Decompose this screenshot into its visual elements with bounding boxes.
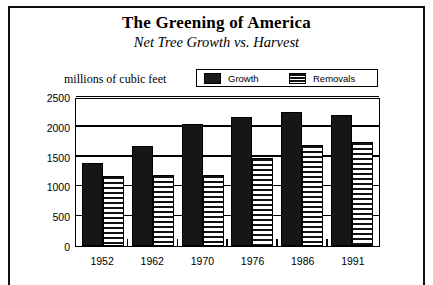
x-axis-tick-mark (226, 239, 228, 246)
y-axis-tick-label: 500 (26, 212, 70, 222)
bar-growth-1976 (231, 117, 252, 246)
x-axis-tick-labels: 195219621970197619861991 (75, 255, 380, 267)
bar-group (82, 99, 124, 246)
x-axis-tick-label: 1952 (80, 255, 124, 267)
solid-black-swatch-icon (204, 73, 221, 84)
legend-label-removals: Removals (313, 73, 355, 84)
x-axis-tick-mark (177, 239, 179, 246)
gridline (76, 96, 379, 97)
bar-removals-1962 (153, 175, 174, 246)
y-axis-tick-label: 2000 (26, 123, 70, 133)
bar-growth-1970 (182, 124, 203, 246)
bar-group (331, 99, 373, 246)
legend-item-growth: Growth (204, 72, 259, 84)
y-axis-tick-label: 1500 (26, 153, 70, 163)
page-border-top (8, 6, 425, 8)
x-axis-tick-mark (127, 239, 129, 246)
plot-inner (76, 99, 379, 246)
chart-figure: The Greening of America Net Tree Growth … (0, 0, 433, 285)
chart-subtitle: Net Tree Growth vs. Harvest (0, 34, 433, 51)
y-axis-tick-label: 2500 (26, 93, 70, 103)
bar-group (182, 99, 224, 246)
x-axis-tick-label: 1986 (281, 255, 325, 267)
bar-removals-1991 (352, 142, 373, 246)
bar-group (231, 99, 273, 246)
legend-label-growth: Growth (228, 73, 259, 84)
bar-group (132, 99, 174, 246)
bar-removals-1970 (203, 175, 224, 246)
bar-group (281, 99, 323, 246)
bar-removals-1952 (103, 176, 124, 246)
x-axis-tick-mark (326, 239, 328, 246)
x-axis-tick-mark (276, 239, 278, 246)
x-axis-tick-label: 1962 (130, 255, 174, 267)
bar-removals-1976 (252, 158, 273, 246)
bar-growth-1991 (331, 115, 352, 246)
y-axis-units-label: millions of cubic feet (64, 72, 166, 87)
plot-area (75, 98, 380, 247)
x-axis-tick-label: 1991 (331, 255, 375, 267)
horizontal-stripe-swatch-icon (289, 73, 306, 84)
bar-growth-1952 (82, 163, 103, 246)
bar-growth-1962 (132, 146, 153, 246)
x-axis-tick-label: 1976 (231, 255, 275, 267)
x-axis-tick-label: 1970 (180, 255, 224, 267)
bar-removals-1986 (302, 145, 323, 246)
bar-groups (76, 99, 379, 246)
bar-growth-1986 (281, 112, 302, 246)
legend-item-removals: Removals (289, 72, 355, 84)
y-axis-tick-label: 1000 (26, 182, 70, 192)
chart-title: The Greening of America (0, 13, 433, 33)
chart-legend: Growth Removals (196, 69, 378, 87)
y-axis-tick-label: 0 (26, 242, 70, 252)
y-axis-tick-labels: 05001000150020002500 (24, 98, 70, 247)
